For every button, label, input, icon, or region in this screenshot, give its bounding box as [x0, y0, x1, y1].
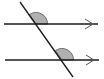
parallel-lines-diagram — [0, 0, 104, 79]
transversal-line — [20, 2, 73, 77]
lower-angle-marker — [55, 49, 73, 60]
